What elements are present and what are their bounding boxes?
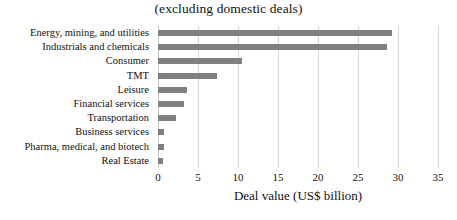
plot-area xyxy=(158,26,438,168)
category-axis-labels: Energy, mining, and utilitiesIndustrials… xyxy=(0,26,152,168)
bar[interactable] xyxy=(158,73,217,79)
bar-row[interactable] xyxy=(158,140,438,154)
category-label: Consumer xyxy=(0,54,152,68)
bar[interactable] xyxy=(158,44,387,50)
category-label: Energy, mining, and utilities xyxy=(0,26,152,40)
x-axis-title: Deal value (US$ billion) xyxy=(158,188,438,204)
bar-row[interactable] xyxy=(158,40,438,54)
x-tick-25: 25 xyxy=(353,170,364,184)
x-tick-30: 30 xyxy=(393,170,404,184)
x-tick-20: 20 xyxy=(313,170,324,184)
bar-series xyxy=(158,26,438,168)
bar[interactable] xyxy=(158,115,176,121)
bar-row[interactable] xyxy=(158,111,438,125)
chart-title: (excluding domestic deals) xyxy=(0,1,457,17)
category-label: Transportation xyxy=(0,111,152,125)
x-tick-15: 15 xyxy=(273,170,284,184)
category-label: Real Estate xyxy=(0,154,152,168)
bar[interactable] xyxy=(158,144,164,150)
bar[interactable] xyxy=(158,58,242,64)
x-tick-35: 35 xyxy=(433,170,444,184)
bar-row[interactable] xyxy=(158,83,438,97)
bar[interactable] xyxy=(158,158,163,164)
category-label: Leisure xyxy=(0,83,152,97)
bar[interactable] xyxy=(158,129,164,135)
category-label: Pharma, medical, and biotech xyxy=(0,140,152,154)
category-label: Financial services xyxy=(0,97,152,111)
x-axis-tick-labels: 05101520253035 xyxy=(158,170,438,185)
category-label: Business services xyxy=(0,125,152,139)
category-label: TMT xyxy=(0,69,152,83)
bar-row[interactable] xyxy=(158,26,438,40)
x-tick-10: 10 xyxy=(233,170,244,184)
bar-row[interactable] xyxy=(158,154,438,168)
bar[interactable] xyxy=(158,30,392,36)
x-tick-5: 5 xyxy=(195,170,201,184)
bar-row[interactable] xyxy=(158,69,438,83)
bar[interactable] xyxy=(158,101,184,107)
x-tick-0: 0 xyxy=(155,170,161,184)
category-label: Industrials and chemicals xyxy=(0,40,152,54)
bar-row[interactable] xyxy=(158,54,438,68)
bar-row[interactable] xyxy=(158,97,438,111)
bar-chart: (excluding domestic deals) Energy, minin… xyxy=(0,0,457,220)
bar-row[interactable] xyxy=(158,125,438,139)
bar[interactable] xyxy=(158,87,187,93)
gridline-35 xyxy=(438,26,439,168)
